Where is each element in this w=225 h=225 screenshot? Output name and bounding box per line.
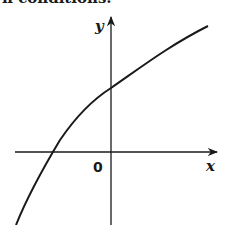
x-axis-label: x: [205, 157, 216, 175]
graph: y x 0: [0, 0, 225, 225]
y-axis-label: y: [94, 17, 105, 35]
origin-label: 0: [93, 159, 103, 175]
function-curve: [16, 26, 208, 225]
